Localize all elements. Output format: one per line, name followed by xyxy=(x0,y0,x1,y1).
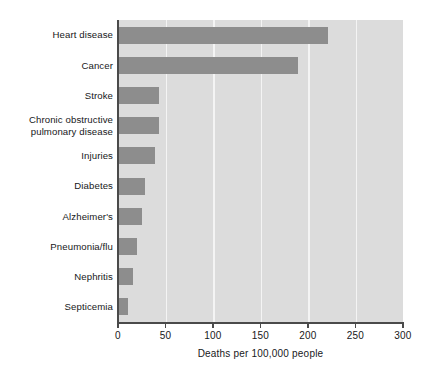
bar xyxy=(118,147,155,164)
bar xyxy=(118,117,159,134)
x-tick-label: 200 xyxy=(299,330,316,341)
bar-chart: Heart diseaseCancerStrokeChronic obstruc… xyxy=(0,0,427,374)
category-label: Alzheimer's xyxy=(0,211,113,223)
x-tick-mark xyxy=(260,322,262,328)
gridline xyxy=(356,20,358,322)
category-label: Pneumonia/flu xyxy=(0,241,113,253)
x-tick-mark xyxy=(117,322,119,328)
category-label: Diabetes xyxy=(0,180,113,192)
category-label: Chronic obstructive pulmonary disease xyxy=(0,114,113,137)
x-tick-label: 150 xyxy=(252,330,269,341)
bar xyxy=(118,27,328,44)
x-tick-mark xyxy=(165,322,167,328)
bar xyxy=(118,238,137,255)
gridline xyxy=(308,20,310,322)
bar xyxy=(118,87,159,104)
category-axis-labels: Heart diseaseCancerStrokeChronic obstruc… xyxy=(0,20,113,322)
x-tick-mark xyxy=(355,322,357,328)
category-label: Injuries xyxy=(0,150,113,162)
bar xyxy=(118,268,133,285)
x-tick-mark xyxy=(307,322,309,328)
category-label: Heart disease xyxy=(0,29,113,41)
x-axis-title: Deaths per 100,000 people xyxy=(118,348,403,359)
x-tick-label: 0 xyxy=(115,330,121,341)
bar xyxy=(118,298,128,315)
bar xyxy=(118,178,145,195)
x-tick-label: 100 xyxy=(204,330,221,341)
category-label: Stroke xyxy=(0,90,113,102)
x-tick-mark xyxy=(402,322,404,328)
plot-area xyxy=(118,20,403,322)
bar xyxy=(118,208,142,225)
y-axis-line xyxy=(117,20,119,323)
x-tick-mark xyxy=(212,322,214,328)
x-tick-label: 50 xyxy=(160,330,172,341)
category-label: Cancer xyxy=(0,60,113,72)
bar xyxy=(118,57,298,74)
x-tick-label: 250 xyxy=(347,330,364,341)
category-label: Septicemia xyxy=(0,301,113,313)
category-label: Nephritis xyxy=(0,271,113,283)
x-tick-label: 300 xyxy=(394,330,411,341)
